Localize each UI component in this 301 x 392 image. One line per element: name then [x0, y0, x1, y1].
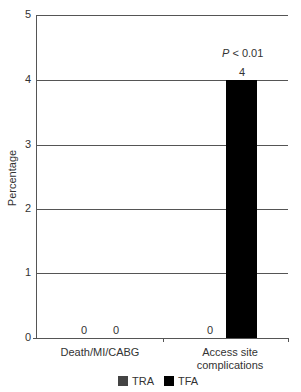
legend-swatch-tfa — [164, 376, 174, 386]
y-tick-5: 5 — [17, 8, 31, 20]
legend-swatch-tra — [118, 376, 128, 386]
value-label-access-tra: 0 — [200, 324, 220, 336]
legend-label-tfa: TFA — [178, 375, 198, 387]
y-tick-1: 1 — [17, 266, 31, 278]
category-label-death: Death/MI/CABG — [55, 346, 145, 359]
p-value-text: < 0.01 — [229, 47, 263, 59]
p-value-annotation: P < 0.01 — [222, 47, 263, 59]
y-tick-4: 4 — [17, 73, 31, 85]
x-tick-mark-mid — [163, 338, 164, 342]
y-axis — [36, 15, 37, 339]
legend: TRA TFA — [118, 375, 208, 387]
legend-item-tra: TRA — [118, 375, 154, 387]
y-axis-label: Percentage — [6, 148, 18, 208]
legend-label-tra: TRA — [132, 375, 154, 387]
y-tick-3: 3 — [17, 138, 31, 150]
value-label-death-tra: 0 — [74, 324, 94, 336]
x-axis — [33, 338, 289, 339]
value-label-death-tfa: 0 — [106, 324, 126, 336]
legend-item-tfa: TFA — [164, 375, 198, 387]
value-label-access-tfa: 4 — [232, 66, 252, 78]
x-tick-mark-end — [288, 338, 289, 342]
category-label-access-line2: complications — [180, 359, 280, 372]
y-tick-2: 2 — [17, 202, 31, 214]
gridline-5 — [36, 15, 288, 16]
bar-tfa-access-site — [226, 80, 257, 338]
category-label-access-line1: Access site — [180, 346, 280, 359]
category-label-access: Access site complications — [180, 346, 280, 372]
y-tick-0: 0 — [17, 331, 31, 343]
